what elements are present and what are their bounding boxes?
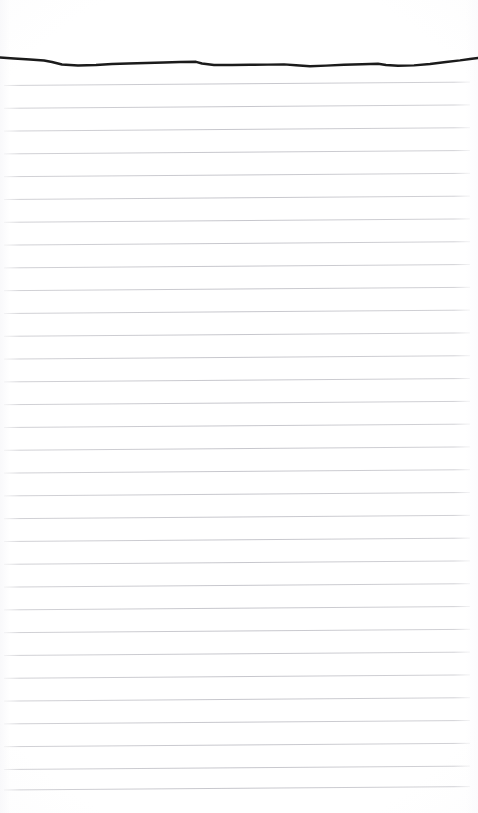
top-stroke-layer bbox=[0, 0, 478, 813]
torn-top-edge-stroke-icon bbox=[0, 58, 478, 67]
scanned-page bbox=[0, 0, 478, 813]
